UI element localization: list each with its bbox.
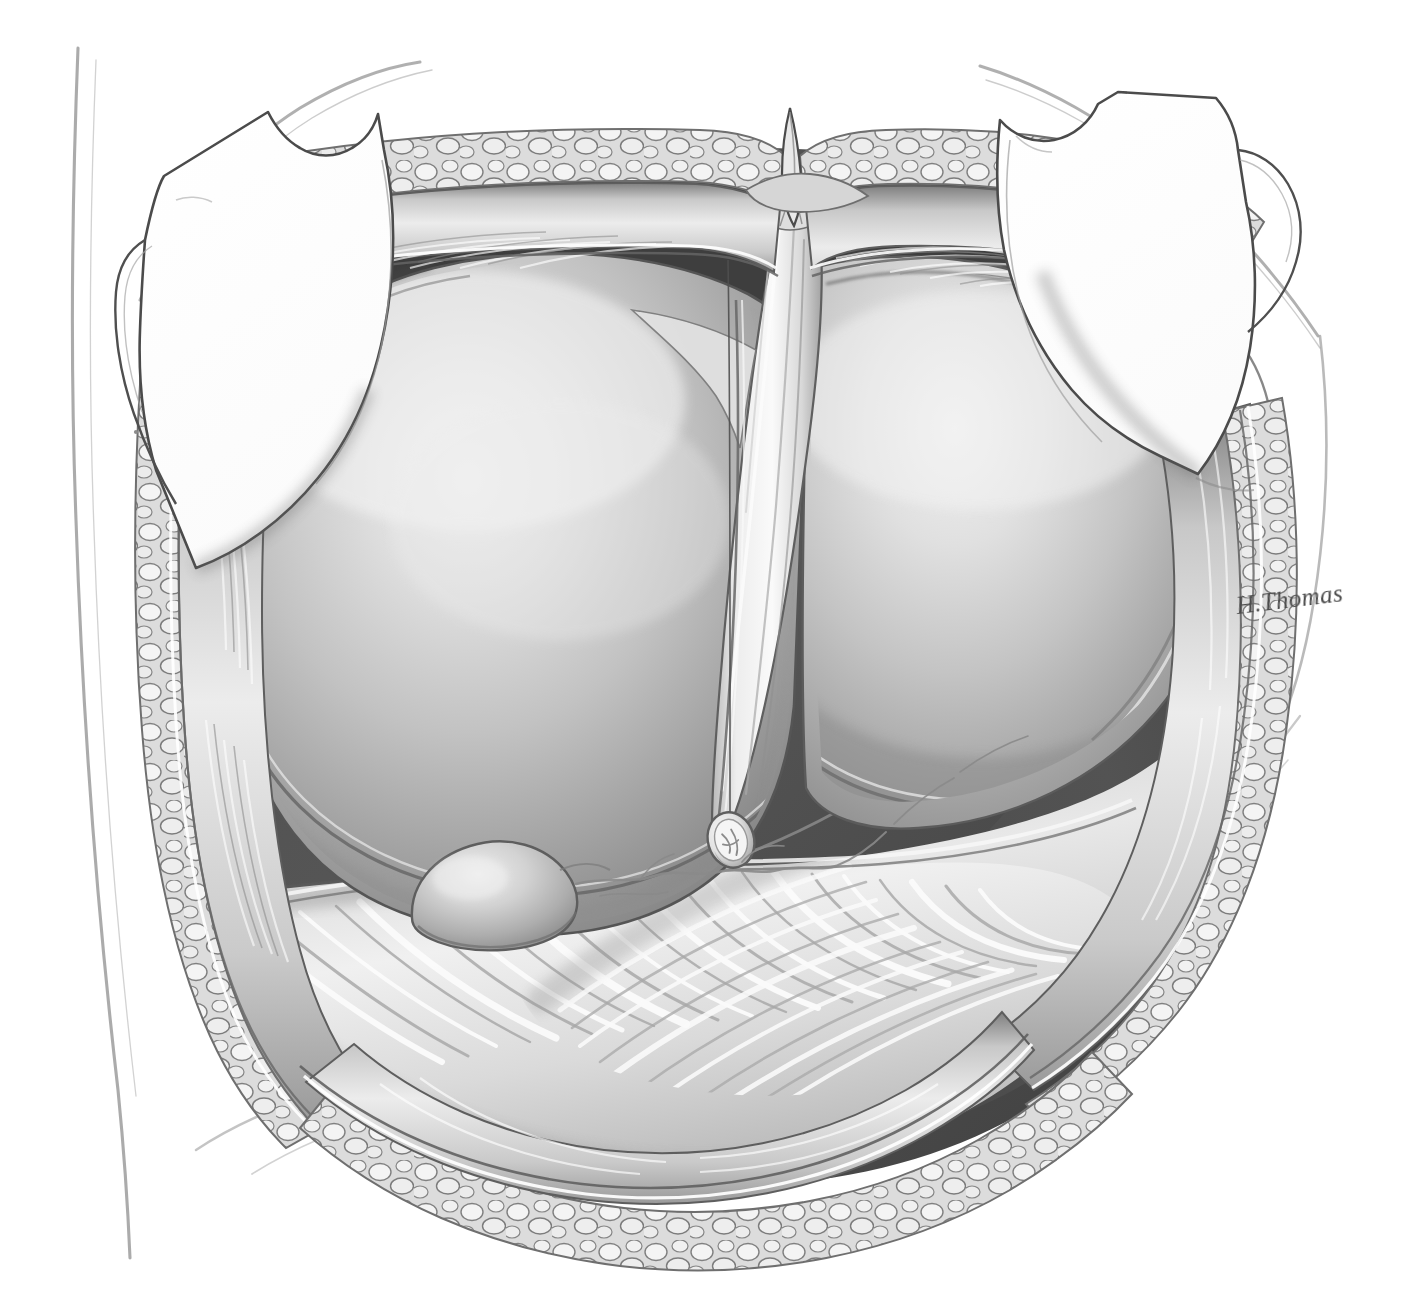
surgical-illustration-svg bbox=[0, 0, 1405, 1312]
retractor-rivet-left bbox=[134, 430, 138, 434]
illustration-canvas: H.Thomas bbox=[0, 0, 1405, 1312]
